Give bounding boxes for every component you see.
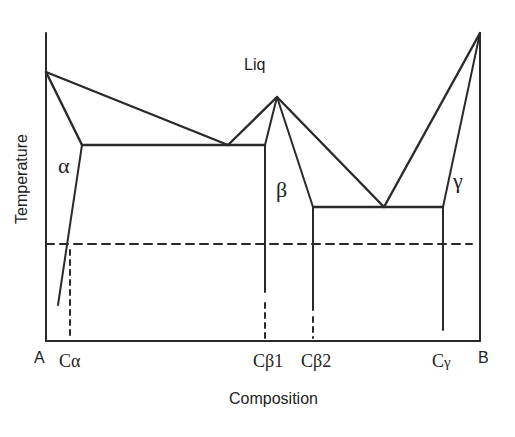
liquid-region-label: Liq [244, 56, 265, 74]
c-beta2-letter: C [301, 351, 313, 371]
c-gamma-label: Cγ [432, 351, 451, 372]
x-axis-label: Composition [229, 390, 318, 408]
alpha-region-label: α [58, 153, 70, 179]
beta-region-label: β [276, 177, 287, 203]
c-alpha-subscript: α [71, 351, 80, 371]
alpha-solidus [46, 72, 82, 145]
gamma-region-label: γ [453, 168, 463, 194]
c-gamma-letter: C [432, 351, 444, 371]
endpoint-b-label: B [478, 349, 489, 367]
c-beta2-subscript: β2 [313, 351, 331, 371]
liquidus-beta-to-eutectic2 [277, 97, 384, 207]
c-beta1-letter: C [253, 351, 265, 371]
y-axis-label: Temperature [13, 129, 31, 229]
c-gamma-subscript: γ [444, 354, 451, 370]
c-beta2-label: Cβ2 [301, 351, 331, 372]
liquidus-eutectic1-to-beta [228, 97, 277, 145]
c-beta1-subscript: β1 [265, 351, 283, 371]
c-alpha-label: Cα [59, 351, 80, 372]
c-alpha-letter: C [59, 351, 71, 371]
liquidus-eutectic2-to-b [384, 33, 480, 207]
endpoint-a-label: A [34, 349, 45, 367]
c-beta1-label: Cβ1 [253, 351, 283, 372]
liquidus-a-to-eutectic1 [46, 72, 228, 145]
